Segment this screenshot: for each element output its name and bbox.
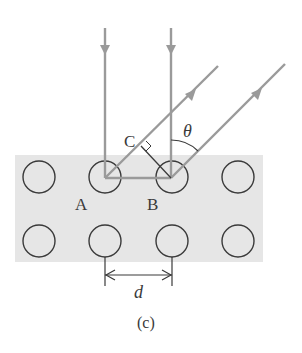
incident-arrowheads — [100, 45, 176, 55]
crystal-lattice-region — [15, 155, 263, 262]
diffraction-diagram: C θ A B d (c) — [0, 0, 302, 353]
arrow-down-icon — [166, 45, 176, 55]
angle-arc — [171, 140, 198, 151]
label-a: A — [75, 195, 88, 214]
label-c: C — [124, 132, 135, 151]
figure-caption: (c) — [137, 314, 155, 332]
arrow-down-icon — [100, 45, 110, 55]
label-b: B — [147, 195, 158, 214]
label-d: d — [134, 282, 144, 302]
arrow-up-right-icon — [251, 88, 262, 100]
arrow-up-right-icon — [185, 89, 196, 101]
label-theta: θ — [183, 121, 192, 141]
